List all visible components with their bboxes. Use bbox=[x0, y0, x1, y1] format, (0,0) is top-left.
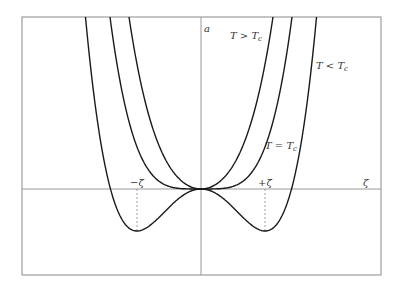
zeta-axis-label: ζ bbox=[363, 177, 369, 188]
label-t-below-tc: T < Tc bbox=[316, 60, 348, 73]
plus-zeta-bar-label: +ζ̄ bbox=[258, 177, 272, 188]
label-t-above-tc: T > Tc bbox=[230, 30, 262, 43]
a-axis-label: a bbox=[204, 23, 210, 34]
label-t-equals-tc: T = Tc bbox=[265, 140, 297, 153]
minus-zeta-bar-label: −ζ̄ bbox=[130, 177, 144, 188]
landau-free-energy-diagram: a ζ T > Tc T < Tc T = Tc −ζ̄ +ζ̄ bbox=[0, 0, 400, 286]
